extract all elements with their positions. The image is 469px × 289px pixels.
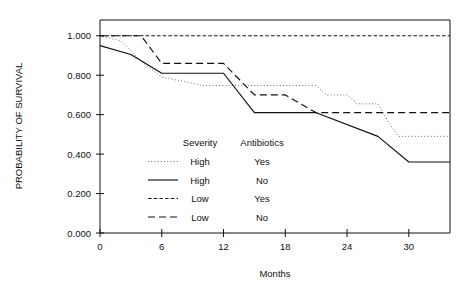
y-tick-label: 0.800 bbox=[67, 70, 91, 81]
legend-antibiotics-value: Yes bbox=[254, 193, 270, 204]
legend-antibiotics-value: No bbox=[256, 212, 268, 223]
y-tick-label: 0.400 bbox=[67, 149, 91, 160]
x-tick-label: 12 bbox=[218, 241, 229, 252]
x-tick-label: 18 bbox=[280, 241, 291, 252]
x-tick-label: 0 bbox=[97, 241, 102, 252]
series-line bbox=[100, 36, 450, 113]
chart-legend: SeverityAntibioticsHighYesHighNoLowYesLo… bbox=[148, 137, 284, 223]
y-axis: 0.0000.2000.4000.6000.8001.000 bbox=[67, 20, 104, 239]
legend-header-severity: Severity bbox=[183, 137, 218, 148]
x-tick-label: 24 bbox=[342, 241, 353, 252]
y-tick-label: 0.000 bbox=[67, 228, 91, 239]
x-tick-label: 6 bbox=[159, 241, 164, 252]
legend-header-antibiotics: Antibiotics bbox=[240, 137, 284, 148]
x-axis-title: Months bbox=[259, 268, 290, 279]
x-tick-label: 30 bbox=[404, 241, 415, 252]
legend-antibiotics-value: No bbox=[256, 175, 268, 186]
y-tick-label: 0.200 bbox=[67, 188, 91, 199]
legend-antibiotics-value: Yes bbox=[254, 156, 270, 167]
y-tick-label: 1.000 bbox=[67, 30, 91, 41]
legend-severity-value: Low bbox=[191, 212, 209, 223]
chart-canvas: 0.0000.2000.4000.6000.8001.000 061218243… bbox=[0, 0, 469, 289]
legend-severity-value: High bbox=[190, 156, 210, 167]
y-tick-label: 0.600 bbox=[67, 109, 91, 120]
survival-chart-figure: 0.0000.2000.4000.6000.8001.000 061218243… bbox=[0, 0, 469, 289]
plot-frame bbox=[100, 20, 450, 233]
legend-severity-value: High bbox=[190, 175, 210, 186]
y-axis-title: PROBABILITY OF SURVIVAL bbox=[13, 63, 24, 190]
legend-severity-value: Low bbox=[191, 193, 209, 204]
x-axis: 0612182430 bbox=[97, 229, 450, 252]
